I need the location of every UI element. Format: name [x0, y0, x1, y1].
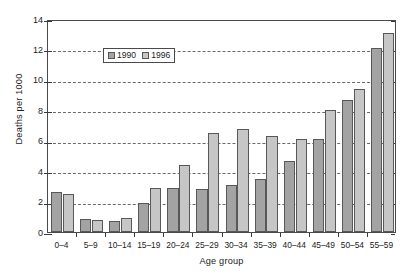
bar-group	[342, 21, 365, 232]
bar-1996-50-54	[354, 89, 365, 232]
bar-group	[255, 21, 278, 232]
legend-label-1990: 1990	[117, 51, 136, 60]
bar-1996-55-59	[383, 33, 394, 232]
bar-group	[51, 21, 74, 232]
x-tick-4	[163, 233, 164, 237]
x-tick-label-5-9: 5–9	[76, 240, 105, 250]
bar-group	[371, 21, 394, 232]
y-tick-label-8: 8	[21, 107, 43, 116]
y-tick-label-4: 4	[21, 168, 43, 177]
y-tick-label-2: 2	[21, 198, 43, 207]
bar-1990-40-44	[284, 161, 295, 233]
legend-entry-1990: 1990	[108, 51, 136, 60]
bar-1990-15-19	[138, 203, 149, 232]
legend-swatch-1996-icon	[142, 52, 149, 59]
bar-1996-25-29	[208, 133, 219, 232]
bar-1990-35-39	[255, 179, 266, 232]
bar-1996-40-44	[296, 139, 307, 232]
x-tick-3	[134, 233, 135, 237]
x-tick-9	[309, 233, 310, 237]
bar-1990-0-4	[51, 192, 62, 232]
x-tick-label-20-24: 20–24	[163, 240, 192, 250]
y-axis-tick-labels: 02468101214	[17, 20, 43, 233]
bar-1990-45-49	[313, 139, 324, 232]
bar-1996-20-24	[179, 165, 190, 232]
bar-1996-5-9	[92, 220, 103, 232]
y-tick-label-0: 0	[21, 229, 43, 238]
y-tick-label-14: 14	[21, 16, 43, 25]
bar-1990-55-59	[371, 48, 382, 232]
x-axis-tick-marks	[47, 233, 396, 238]
x-tick-label-25-29: 25–29	[192, 240, 221, 250]
bar-group	[226, 21, 249, 232]
legend-label-1996: 1996	[151, 51, 170, 60]
x-tick-label-15-19: 15–19	[134, 240, 163, 250]
x-tick-8	[280, 233, 281, 237]
legend-swatch-1990-icon	[108, 52, 115, 59]
bar-1990-5-9	[80, 219, 91, 232]
x-tick-label-0-4: 0–4	[47, 240, 76, 250]
bar-1990-20-24	[167, 188, 178, 232]
bar-1996-0-4	[63, 194, 74, 232]
y-tick-label-6: 6	[21, 137, 43, 146]
bar-1996-10-14	[121, 218, 132, 232]
x-tick-11	[367, 233, 368, 237]
x-tick-2	[105, 233, 106, 237]
x-tick-label-10-14: 10–14	[105, 240, 134, 250]
legend-entry-1996: 1996	[142, 51, 170, 60]
bar-1996-15-19	[150, 188, 161, 232]
chart-legend: 1990 1996	[103, 48, 175, 63]
x-tick-7	[251, 233, 252, 237]
plot-area: 1990 1996	[47, 20, 396, 233]
x-tick-label-45-49: 45–49	[309, 240, 338, 250]
bar-1996-30-34	[237, 129, 248, 232]
x-tick-label-55-59: 55–59	[367, 240, 396, 250]
x-tick-label-30-34: 30–34	[222, 240, 251, 250]
bar-group	[313, 21, 336, 232]
x-tick-6	[222, 233, 223, 237]
x-axis-title: Age group	[47, 256, 396, 266]
x-tick-10	[338, 233, 339, 237]
x-tick-label-50-54: 50–54	[338, 240, 367, 250]
x-tick-5	[192, 233, 193, 237]
bar-1996-35-39	[266, 136, 277, 232]
bar-group	[80, 21, 103, 232]
y-tick-label-12: 12	[21, 46, 43, 55]
bar-group	[284, 21, 307, 232]
bar-group	[196, 21, 219, 232]
x-tick-label-35-39: 35–39	[251, 240, 280, 250]
x-axis-tick-labels: 0–45–910–1415–1920–2425–2930–3435–3940–4…	[47, 240, 396, 252]
y-tick-label-10: 10	[21, 76, 43, 85]
bar-1990-50-54	[342, 100, 353, 232]
x-tick-1	[76, 233, 77, 237]
bar-1990-10-14	[109, 221, 120, 232]
bar-1996-45-49	[325, 110, 336, 232]
bar-1990-30-34	[226, 185, 237, 232]
bar-1990-25-29	[196, 189, 207, 232]
bar-group-container	[48, 21, 395, 232]
bar-chart-figure: Deaths per 1000 02468101214 1990 1996 0–…	[0, 0, 412, 276]
x-tick-label-40-44: 40–44	[280, 240, 309, 250]
